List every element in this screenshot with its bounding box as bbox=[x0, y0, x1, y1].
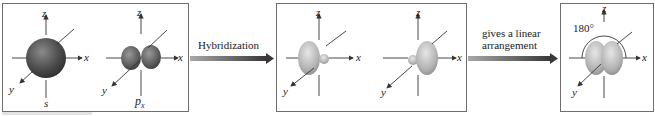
angle-label-180: 180° bbox=[573, 22, 594, 34]
orbital-label-s: s bbox=[44, 97, 48, 109]
linear-arrangement-label-line2: arrangement bbox=[482, 39, 537, 51]
axis-label-z: z bbox=[42, 7, 46, 19]
axis-label-y: y bbox=[572, 86, 577, 98]
axis-label-z: z bbox=[316, 6, 320, 18]
px-lobe-right bbox=[141, 45, 161, 69]
orbital-label-subscript-x: x bbox=[141, 101, 145, 110]
sp-small-lobe bbox=[319, 54, 329, 64]
hybridization-label: Hybridization bbox=[198, 39, 259, 51]
diagram-canvas bbox=[0, 0, 655, 116]
sp-hybrid-left-diagram bbox=[286, 14, 353, 96]
axis-label-x: x bbox=[84, 51, 89, 63]
sp-lobe-right bbox=[601, 41, 623, 75]
sp-large-lobe bbox=[298, 41, 320, 75]
axis-label-x: x bbox=[642, 51, 647, 63]
axis-label-y: y bbox=[9, 83, 14, 95]
hybridization-arrow bbox=[190, 53, 274, 64]
orbital-label-px: px bbox=[135, 95, 145, 112]
axis-label-x: x bbox=[457, 51, 462, 63]
s-orbital-diagram bbox=[12, 15, 82, 98]
linear-arrangement-arrow bbox=[468, 53, 558, 64]
axis-label-y: y bbox=[381, 86, 386, 98]
sp-hybrid-right-diagram bbox=[383, 14, 456, 96]
axis-label-y: y bbox=[283, 85, 288, 97]
axis-label-z: z bbox=[137, 6, 141, 18]
px-orbital-diagram bbox=[106, 14, 178, 96]
axis-label-x: x bbox=[178, 51, 183, 63]
sp-large-lobe bbox=[416, 41, 438, 75]
px-lobe-left bbox=[121, 46, 141, 70]
linear-arrangement-label-line1: gives a linear bbox=[482, 27, 541, 39]
axis-label-y: y bbox=[102, 84, 107, 96]
axis-label-x: x bbox=[356, 51, 361, 63]
axis-label-z: z bbox=[602, 2, 606, 14]
axis-label-z: z bbox=[416, 6, 420, 18]
